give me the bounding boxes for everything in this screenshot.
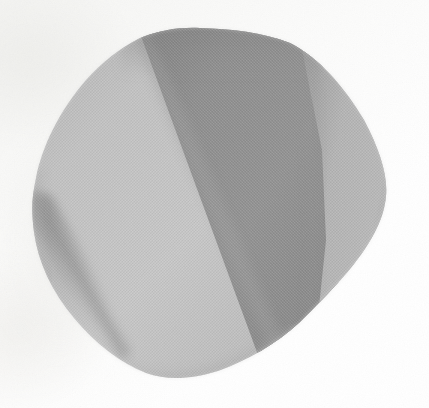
fabric-photograph xyxy=(0,0,429,408)
image-canvas: Folded gray fabric on white background A… xyxy=(0,0,429,408)
